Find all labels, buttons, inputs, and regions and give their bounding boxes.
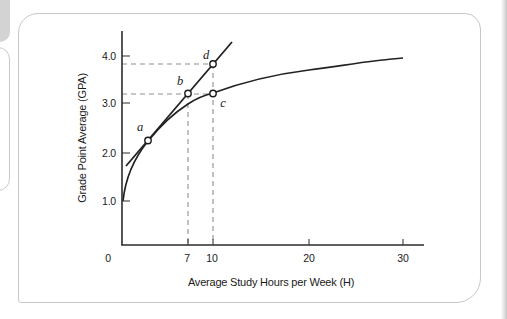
- x-tick-label: 30: [397, 252, 409, 264]
- tangent-line: [126, 42, 232, 166]
- figure-card: 4.0 3.0 2.0 1.0 0 7 10 20 30 Average Stu…: [18, 13, 481, 303]
- y-tick-label: 1.0: [102, 195, 116, 207]
- point-a-marker: [145, 137, 151, 143]
- point-b-label: b: [177, 74, 183, 88]
- x-tick-label: 7: [184, 252, 190, 264]
- point-c-label: c: [220, 96, 226, 110]
- page-edge-shadow: [501, 0, 507, 319]
- point-a-label: a: [137, 120, 143, 134]
- x-tick-label: 0: [105, 252, 111, 264]
- y-tick-label: 3.0: [102, 97, 116, 109]
- gpa-study-hours-chart: 4.0 3.0 2.0 1.0 0 7 10 20 30 Average Stu…: [19, 14, 480, 302]
- point-c-marker: [210, 90, 216, 96]
- corner-card-fragment: [0, 0, 10, 42]
- point-d-label: d: [203, 48, 210, 62]
- gpa-curve: [123, 58, 403, 201]
- point-d-marker: [210, 61, 216, 67]
- x-tick-label: 20: [303, 252, 315, 264]
- x-tick-label: 10: [206, 252, 218, 264]
- background-card-edge: [0, 47, 10, 191]
- y-axis-title: Grade Point Average (GPA): [76, 73, 88, 203]
- x-axis-title: Average Study Hours per Week (H): [188, 276, 354, 288]
- point-b-marker: [185, 90, 191, 96]
- y-tick-label: 2.0: [102, 147, 116, 159]
- y-tick-label: 4.0: [102, 50, 116, 62]
